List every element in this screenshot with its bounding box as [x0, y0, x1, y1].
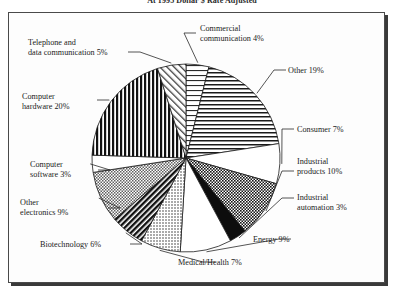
- label-computer-software: Computer software 3%: [30, 160, 71, 179]
- label-line-1: Other 19%: [288, 66, 324, 76]
- label-line-2: products 10%: [297, 167, 342, 177]
- label-telephone-and-data-communication: Telephone and data communication 5%: [28, 38, 108, 57]
- label-line-2: communication 4%: [200, 34, 264, 44]
- label-consumer: Consumer 7%: [297, 125, 344, 135]
- label-line-2: software 3%: [30, 170, 71, 180]
- label-line-1: Consumer 7%: [297, 125, 344, 135]
- leader-line: [184, 33, 198, 63]
- label-line-2: automation 3%: [297, 203, 347, 213]
- label-line-2: data communication 5%: [28, 48, 108, 58]
- label-industrial-products: Industrial products 10%: [297, 157, 342, 176]
- label-line-1: Biotechnology 6%: [40, 240, 101, 250]
- label-computer-hardware: Computer hardware 20%: [22, 92, 70, 111]
- label-commercial-communication: Commercial communication 4%: [200, 24, 264, 43]
- label-line-1: Commercial: [200, 24, 264, 34]
- label-industrial-automation: Industrial automation 3%: [297, 193, 347, 212]
- label-line-1: Industrial: [297, 157, 342, 167]
- leader-line: [257, 70, 286, 93]
- label-line-1: Computer: [22, 92, 70, 102]
- label-line-2: hardware 20%: [22, 102, 70, 112]
- leader-line: [128, 52, 171, 63]
- label-line-1: Computer: [30, 160, 71, 170]
- label-line-1: Energy 9%: [253, 235, 289, 245]
- label-other-electronics: Other electronics 9%: [20, 198, 68, 217]
- leader-line: [282, 129, 294, 164]
- label-energy: Energy 9%: [253, 235, 289, 245]
- pie-slices: [92, 64, 280, 252]
- label-line-1: Telephone and: [28, 38, 108, 48]
- label-line-1: Other: [20, 198, 68, 208]
- label-line-2: electronics 9%: [20, 208, 68, 218]
- label-other: Other 19%: [288, 66, 324, 76]
- label-biotechnology: Biotechnology 6%: [40, 240, 101, 250]
- label-line-1: Industrial: [297, 193, 347, 203]
- label-medical-health: Medical/Health 7%: [178, 258, 242, 268]
- label-line-1: Medical/Health 7%: [178, 258, 242, 268]
